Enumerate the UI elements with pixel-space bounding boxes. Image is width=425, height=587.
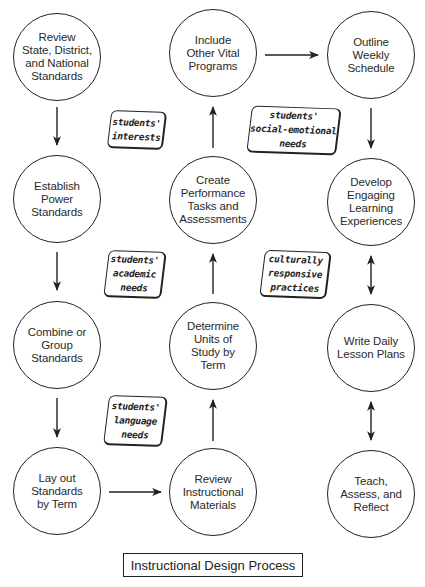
tag-label: students' interests (112, 115, 162, 145)
node-lay-out-standards: Lay out Standards by Term (13, 447, 101, 535)
node-label: Establish Power Standards (27, 180, 87, 219)
node-label: Outline Weekly Schedule (343, 36, 398, 75)
node-label: Combine or Group Standards (24, 326, 90, 365)
diagram-title: Instructional Design Process (131, 558, 296, 573)
node-write-lesson-plans: Write Daily Lesson Plans (327, 304, 415, 392)
tag-students-language-needs: students' language needs (103, 395, 168, 447)
tag-label: students' academic needs (110, 252, 160, 296)
node-establish-power-standards: Establish Power Standards (13, 155, 101, 243)
node-label: Develop Engaging Learning Experiences (336, 176, 406, 228)
node-label: Lay out Standards by Term (27, 472, 87, 511)
node-develop-learning-experiences: Develop Engaging Learning Experiences (327, 158, 415, 246)
tag-label: students' language needs (110, 399, 160, 443)
tag-label: culturally responsive practices (267, 252, 322, 296)
node-label: Write Daily Lesson Plans (333, 335, 409, 361)
tag-students-academic-needs: students' academic needs (103, 250, 167, 299)
tag-culturally-responsive-practices: culturally responsive practices (259, 250, 332, 299)
tag-label: students' social-emotional needs (250, 107, 338, 152)
diagram-title-box: Instructional Design Process (123, 553, 303, 577)
node-teach-assess-reflect: Teach, Assess, and Reflect (327, 450, 415, 538)
node-review-instructional-materials: Review Instructional Materials (169, 448, 257, 536)
tag-students-interests: students' interests (107, 110, 167, 150)
node-label: Include Other Vital Programs (182, 34, 243, 73)
node-create-performance-tasks: Create Performance Tasks and Assessments (169, 156, 257, 244)
node-label: Review Instructional Materials (179, 473, 248, 512)
node-label: Teach, Assess, and Reflect (336, 475, 406, 514)
instructional-design-diagram: Review State, District, and National Sta… (0, 0, 425, 587)
node-label: Create Performance Tasks and Assessments (175, 174, 250, 226)
node-determine-units: Determine Units of Study by Term (169, 302, 257, 390)
node-label: Determine Units of Study by Term (183, 320, 243, 372)
node-include-other-programs: Include Other Vital Programs (169, 9, 257, 97)
node-outline-weekly-schedule: Outline Weekly Schedule (327, 11, 415, 99)
node-combine-group-standards: Combine or Group Standards (13, 301, 101, 389)
tag-students-social-emotional-needs: students' social-emotional needs (246, 105, 341, 155)
node-review-standards: Review State, District, and National Sta… (13, 13, 101, 101)
node-label: Review State, District, and National Sta… (18, 31, 96, 83)
